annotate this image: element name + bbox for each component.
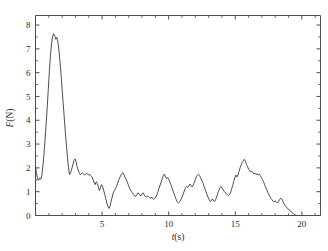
- svg-text:F(N): F(N): [5, 108, 16, 128]
- y-tick-label: 8: [26, 20, 31, 30]
- y-tick-label: 0: [26, 211, 31, 221]
- y-tick-label: 2: [26, 163, 31, 173]
- y-tick-label: 4: [26, 115, 31, 125]
- data-series-force: [36, 34, 297, 216]
- y-tick-label: 1: [26, 187, 31, 197]
- x-axis-title: t(s): [172, 232, 185, 243]
- x-tick-label: 10: [164, 219, 174, 229]
- y-tick-label: 3: [26, 139, 31, 149]
- y-axis-ticks: [36, 25, 321, 215]
- y-tick-label: 6: [26, 68, 31, 78]
- force-time-chart: 012345678 5101520 F(N) t(s): [0, 0, 328, 251]
- plot-frame: [36, 16, 321, 216]
- chart-svg: 012345678 5101520 F(N) t(s): [0, 0, 328, 251]
- y-tick-label: 5: [26, 92, 31, 102]
- svg-text:t(s): t(s): [172, 232, 185, 243]
- y-axis-title: F(N): [5, 108, 16, 128]
- x-axis-ticks: [49, 16, 315, 216]
- y-tick-label: 7: [26, 44, 31, 54]
- x-tick-label: 20: [297, 219, 307, 229]
- x-tick-label: 15: [231, 219, 241, 229]
- y-axis-tick-labels: 012345678: [26, 20, 31, 220]
- x-axis-tick-labels: 5101520: [100, 219, 307, 229]
- x-tick-label: 5: [100, 219, 105, 229]
